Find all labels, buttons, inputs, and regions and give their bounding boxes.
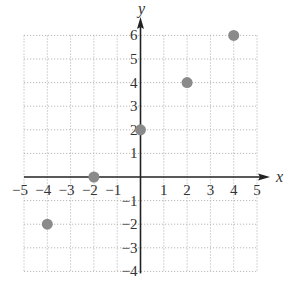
y-tick-label: 6 <box>130 27 138 43</box>
x-tick-label: 1 <box>160 182 168 198</box>
x-tick-label: −3 <box>59 182 75 198</box>
x-tick-label: −5 <box>12 182 28 198</box>
x-tick-label: 3 <box>207 182 215 198</box>
data-point <box>135 124 146 135</box>
axes <box>24 17 270 273</box>
y-tick-label: −3 <box>122 240 138 256</box>
x-tick-label: 4 <box>230 182 238 198</box>
y-tick-label: −2 <box>122 216 138 232</box>
data-point <box>182 77 193 88</box>
data-point <box>42 219 53 230</box>
y-tick-label: −1 <box>122 193 138 209</box>
x-tick-label: −4 <box>35 182 51 198</box>
y-tick-label: 3 <box>130 98 138 114</box>
y-tick-label: 4 <box>130 75 138 91</box>
data-point <box>88 172 99 183</box>
x-tick-label: 2 <box>183 182 191 198</box>
y-tick-label: 1 <box>130 145 138 161</box>
y-tick-label: −4 <box>122 263 138 279</box>
y-axis-label: y <box>136 0 146 18</box>
tick-labels: −5−4−3−2−112345−4−3−2−1123456 <box>12 27 261 279</box>
x-axis-label: x <box>275 168 283 185</box>
x-tick-label: 5 <box>253 182 261 198</box>
y-tick-label: 5 <box>130 51 138 67</box>
coordinate-plane: −5−4−3−2−112345−4−3−2−1123456 x y <box>0 0 290 285</box>
data-point <box>228 30 239 41</box>
x-tick-label: −1 <box>105 182 121 198</box>
x-tick-label: −2 <box>82 182 98 198</box>
